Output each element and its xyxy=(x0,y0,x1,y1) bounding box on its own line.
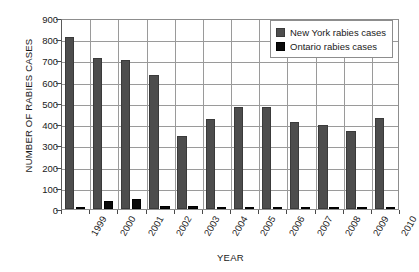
x-axis-title: YEAR xyxy=(58,252,403,263)
x-tick-mark xyxy=(286,210,287,214)
y-tick-label: 400 xyxy=(12,120,58,131)
legend-label: New York rabies cases xyxy=(290,27,386,38)
bar-group xyxy=(118,20,146,209)
x-tick-label: 2009 xyxy=(371,214,391,238)
bar-group xyxy=(90,20,118,209)
bar-ontario xyxy=(386,207,395,209)
chart-legend: New York rabies casesOntario rabies case… xyxy=(270,20,393,58)
x-tick-label: 2006 xyxy=(286,214,306,238)
y-tick-label: 700 xyxy=(12,56,58,67)
bar-group xyxy=(231,20,259,209)
x-tick-mark xyxy=(89,210,90,214)
x-tick-label: 2002 xyxy=(174,214,194,238)
bar-new-york xyxy=(346,131,355,209)
x-tick-label: 2008 xyxy=(343,214,363,238)
bar-new-york xyxy=(93,58,102,209)
y-tick-label: 200 xyxy=(12,162,58,173)
bar-ontario xyxy=(76,207,85,209)
bar-group xyxy=(147,20,175,209)
legend-item: New York rabies cases xyxy=(276,25,386,39)
bar-ontario xyxy=(132,199,141,209)
bar-group xyxy=(203,20,231,209)
bar-ontario xyxy=(188,206,197,209)
y-tick-label: 900 xyxy=(12,14,58,25)
x-tick-mark xyxy=(61,210,62,214)
bar-new-york xyxy=(149,75,158,209)
x-tick-mark xyxy=(343,210,344,214)
bar-new-york xyxy=(65,37,74,209)
legend-item: Ontario rabies cases xyxy=(276,39,386,53)
x-tick-label: 2010 xyxy=(399,214,419,238)
y-tick-label: 600 xyxy=(12,77,58,88)
bar-new-york xyxy=(121,60,130,209)
x-tick-label: 2007 xyxy=(314,214,334,238)
x-tick-label: 2005 xyxy=(258,214,278,238)
bar-ontario xyxy=(217,207,226,209)
x-tick-mark xyxy=(230,210,231,214)
bar-ontario xyxy=(160,206,169,209)
x-tick-mark xyxy=(371,210,372,214)
x-tick-mark xyxy=(146,210,147,214)
x-tick-label: 2004 xyxy=(230,214,250,238)
bar-ontario xyxy=(301,207,310,209)
x-tick-mark xyxy=(315,210,316,214)
bar-new-york xyxy=(177,136,186,209)
bar-new-york xyxy=(262,107,271,210)
bar-ontario xyxy=(104,201,113,209)
x-tick-label: 2001 xyxy=(145,214,165,238)
y-tick-label: 100 xyxy=(12,183,58,194)
x-tick-mark xyxy=(174,210,175,214)
legend-swatch-icon xyxy=(276,42,285,51)
y-tick-label: 0 xyxy=(12,205,58,216)
bar-new-york xyxy=(234,107,243,210)
bar-new-york xyxy=(318,125,327,209)
bar-ontario xyxy=(357,207,366,209)
bar-group xyxy=(62,20,90,209)
y-tick-label: 300 xyxy=(12,141,58,152)
x-tick-mark xyxy=(399,210,400,214)
x-tick-label: 1999 xyxy=(89,214,109,238)
x-tick-mark xyxy=(117,210,118,214)
y-tick-label: 800 xyxy=(12,35,58,46)
x-tick-mark xyxy=(202,210,203,214)
bar-new-york xyxy=(206,119,215,209)
bar-new-york xyxy=(375,118,384,209)
legend-swatch-icon xyxy=(276,28,285,37)
bar-ontario xyxy=(273,207,282,209)
bar-ontario xyxy=(329,207,338,209)
x-tick-label: 2003 xyxy=(202,214,222,238)
bar-group xyxy=(175,20,203,209)
legend-label: Ontario rabies cases xyxy=(290,41,377,52)
x-tick-label: 2000 xyxy=(117,214,137,238)
bar-ontario xyxy=(245,207,254,209)
x-tick-mark xyxy=(258,210,259,214)
bar-new-york xyxy=(290,122,299,209)
y-tick-label: 500 xyxy=(12,98,58,109)
